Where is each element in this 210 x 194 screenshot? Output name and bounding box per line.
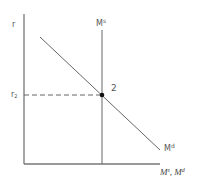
x-axis-label-sup2: d	[182, 167, 185, 173]
x-axis-label: Ms, Md	[160, 168, 185, 177]
money-demand-line	[40, 37, 160, 150]
equilibrium-label: 2	[111, 84, 117, 93]
money-demand-label-main: M	[164, 144, 171, 153]
money-demand-label: Md	[164, 145, 175, 153]
money-supply-label-sup: s	[103, 17, 106, 24]
x-axis-label-sup1: s	[168, 167, 170, 173]
money-supply-label: Ms	[96, 20, 106, 28]
interest-rate-label: r2	[11, 91, 17, 99]
equilibrium-point	[100, 93, 105, 98]
interest-rate-label-sub: 2	[14, 93, 17, 99]
x-axis-label-m2: M	[174, 167, 182, 177]
money-market-diagram	[0, 0, 210, 194]
money-supply-label-main: M	[96, 19, 103, 28]
money-demand-label-sup: d	[171, 142, 175, 149]
y-axis-label: r	[12, 21, 15, 29]
x-axis-label-m1: M	[160, 167, 168, 177]
